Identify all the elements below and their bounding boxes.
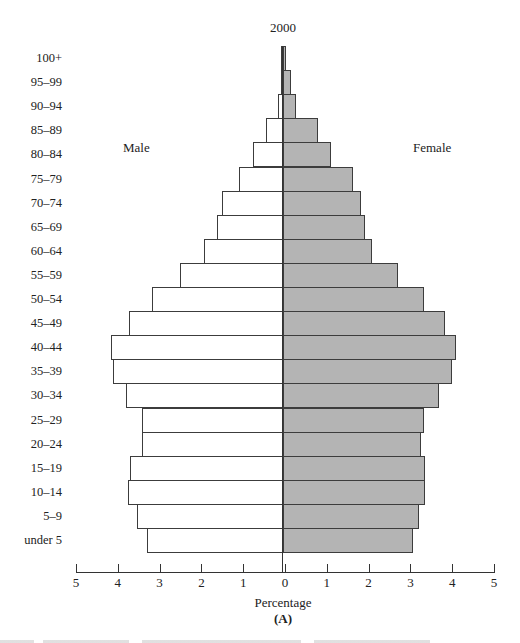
- male-side-label: Male: [123, 140, 150, 156]
- male-bar: [128, 480, 284, 505]
- x-tick-label: 3: [400, 575, 420, 591]
- female-bar: [283, 528, 413, 553]
- female-bar: [283, 456, 425, 481]
- x-tick-label: 4: [108, 575, 128, 591]
- age-label: 45–49: [0, 311, 62, 335]
- female-bar: [283, 311, 445, 336]
- x-axis-label: Percentage: [233, 595, 333, 611]
- age-label: 90–94: [0, 94, 62, 118]
- x-tick-label: 1: [317, 575, 337, 591]
- x-tick: [160, 564, 161, 572]
- x-tick-label: 2: [191, 575, 211, 591]
- x-tick: [76, 564, 77, 572]
- x-tick: [201, 564, 202, 572]
- male-bar: [204, 239, 284, 264]
- age-label: 20–24: [0, 432, 62, 456]
- male-bar: [130, 456, 284, 481]
- female-bar: [283, 504, 419, 529]
- male-bar: [239, 167, 284, 192]
- female-bar: [283, 239, 372, 264]
- female-bar: [283, 359, 452, 384]
- age-label: 15–19: [0, 456, 62, 480]
- male-bar: [137, 504, 284, 529]
- male-bar: [129, 311, 284, 336]
- age-label: 55–59: [0, 263, 62, 287]
- female-bar: [283, 480, 425, 505]
- x-tick: [494, 564, 495, 572]
- x-tick: [285, 564, 286, 572]
- male-bar: [217, 215, 284, 240]
- age-label: 40–44: [0, 335, 62, 359]
- female-side-label: Female: [413, 140, 451, 156]
- x-tick-label: 0: [275, 575, 295, 591]
- male-bar: [113, 359, 284, 384]
- age-label: 95–99: [0, 70, 62, 94]
- male-bar: [152, 287, 284, 312]
- panel-label: (A): [258, 611, 308, 627]
- x-tick-label: 3: [150, 575, 170, 591]
- x-tick-label: 5: [66, 575, 86, 591]
- male-bar: [142, 432, 284, 457]
- age-label: 60–64: [0, 239, 62, 263]
- female-bar: [283, 118, 318, 143]
- male-bar: [126, 383, 284, 408]
- age-label: 75–79: [0, 167, 62, 191]
- age-label: 70–74: [0, 191, 62, 215]
- female-bar: [283, 263, 398, 288]
- age-label: 65–69: [0, 215, 62, 239]
- male-bar: [111, 335, 284, 360]
- female-bar: [283, 70, 291, 95]
- age-label: 80–84: [0, 142, 62, 166]
- x-tick: [243, 564, 244, 572]
- male-bar: [222, 191, 284, 216]
- x-tick-label: 4: [442, 575, 462, 591]
- x-tick: [369, 564, 370, 572]
- age-label: 30–34: [0, 383, 62, 407]
- female-bar: [283, 432, 421, 457]
- x-tick-label: 1: [233, 575, 253, 591]
- female-bar: [283, 46, 286, 71]
- x-tick: [118, 564, 119, 572]
- female-bar: [283, 94, 296, 119]
- age-label: 100+: [0, 46, 62, 70]
- male-bar: [180, 263, 284, 288]
- x-tick: [327, 564, 328, 572]
- age-label: 10–14: [0, 480, 62, 504]
- x-tick-label: 5: [484, 575, 504, 591]
- female-bar: [283, 142, 331, 167]
- female-bar: [283, 167, 353, 192]
- female-bar: [283, 383, 439, 408]
- x-tick: [452, 564, 453, 572]
- male-bar: [253, 142, 284, 167]
- age-label: 25–29: [0, 408, 62, 432]
- female-bar: [283, 408, 424, 433]
- x-tick-label: 2: [359, 575, 379, 591]
- age-label: 85–89: [0, 118, 62, 142]
- x-tick: [410, 564, 411, 572]
- female-bar: [283, 215, 365, 240]
- age-label: 35–39: [0, 359, 62, 383]
- female-bar: [283, 191, 361, 216]
- female-bar: [283, 287, 424, 312]
- female-bar: [283, 335, 456, 360]
- age-label: 50–54: [0, 287, 62, 311]
- x-axis-line: [76, 572, 495, 573]
- male-bar: [142, 408, 284, 433]
- chart-title: 2000: [263, 20, 303, 36]
- age-label: 5–9: [0, 504, 62, 528]
- center-line: [282, 46, 283, 572]
- male-bar: [147, 528, 284, 553]
- age-label: under 5: [0, 528, 62, 552]
